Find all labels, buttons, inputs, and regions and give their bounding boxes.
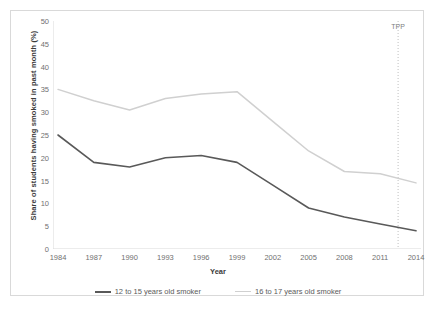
y-tick-label: 40 [25, 62, 49, 71]
annotation-label-tpp: TPP [391, 23, 405, 30]
x-tick-label: 1999 [217, 253, 257, 262]
legend-swatch-line-icon [235, 291, 251, 292]
x-tick-label: 2014 [396, 253, 436, 262]
x-tick-label: 1990 [110, 253, 150, 262]
x-tick-label: 1996 [181, 253, 221, 262]
y-tick-label: 25 [25, 131, 49, 140]
x-axis-title: Year [11, 267, 425, 276]
chart-container: Share of students having smoked in past … [10, 10, 424, 296]
x-tick-label: 2005 [289, 253, 329, 262]
series-line-0 [58, 135, 416, 231]
y-tick-label: 5 [25, 222, 49, 231]
legend-item[interactable]: 16 to 17 years old smoker [235, 287, 341, 296]
legend-item[interactable]: 12 to 15 years old smoker [95, 287, 201, 296]
y-axis-tick-labels: 05101520253035404550 [21, 21, 49, 249]
plot-area [53, 21, 421, 249]
x-tick-label: 2008 [324, 253, 364, 262]
x-tick-label: 2011 [360, 253, 400, 262]
y-tick-label: 45 [25, 39, 49, 48]
x-tick-label: 1993 [145, 253, 185, 262]
y-tick-label: 30 [25, 108, 49, 117]
x-tick-label: 2002 [253, 253, 293, 262]
y-tick-label: 35 [25, 85, 49, 94]
y-tick-label: 50 [25, 17, 49, 26]
legend-swatch-line-icon [95, 291, 111, 293]
x-tick-label: 1987 [74, 253, 114, 262]
series-line-1 [58, 89, 416, 182]
chart-plot-svg [53, 21, 421, 249]
x-axis-tick-labels: 1984198719901993199619992002200520082011… [53, 253, 421, 265]
legend-label: 16 to 17 years old smoker [255, 287, 341, 296]
chart-legend: 12 to 15 years old smoker16 to 17 years … [11, 287, 425, 296]
y-tick-label: 10 [25, 199, 49, 208]
x-tick-label: 1984 [38, 253, 78, 262]
y-tick-label: 15 [25, 176, 49, 185]
legend-label: 12 to 15 years old smoker [115, 287, 201, 296]
y-tick-label: 20 [25, 153, 49, 162]
